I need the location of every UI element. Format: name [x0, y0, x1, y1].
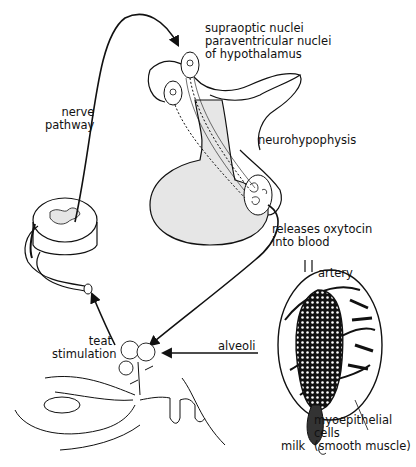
label-line: stimulation [52, 348, 112, 361]
label-line: of hypothalamus [205, 48, 331, 61]
oxytocin-label: releases oxytocin into blood [272, 223, 372, 249]
milk-label: milk [281, 440, 305, 453]
label-line: into blood [272, 236, 372, 249]
artery-label: artery [318, 267, 353, 280]
pituitary-illustration [148, 52, 301, 245]
label-line: (smooth muscle) [314, 440, 411, 453]
alveoli-label: alveoli [218, 340, 256, 353]
neurohypophysis-label: neurohypophysis [258, 134, 356, 147]
udder-calf-illustration [15, 341, 225, 450]
nerve-pathway-label: nerve pathway [45, 106, 94, 132]
spinal-cord-illustration [25, 198, 97, 294]
teat-stimulation-label: teat stimulation [52, 335, 112, 361]
hypothalamus-label: supraoptic nuclei paraventricular nuclei… [205, 22, 331, 61]
myoepithelial-label: myoepithelial cells (smooth muscle) [314, 414, 411, 453]
label-line: pathway [45, 119, 94, 132]
